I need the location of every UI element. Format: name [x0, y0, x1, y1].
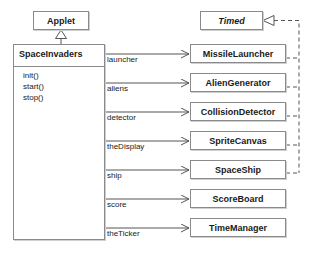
- class-name-aliengenerator: AlienGenerator: [191, 78, 285, 88]
- class-box-collisiondetector[interactable]: CollisionDetector: [190, 102, 286, 121]
- role-label-detector: detector: [107, 113, 136, 122]
- operations-compartment: init() start() stop(): [23, 70, 44, 103]
- class-box-spritecanvas[interactable]: SpriteCanvas: [190, 131, 286, 150]
- class-box-timemanager[interactable]: TimeManager: [190, 218, 286, 237]
- role-label-score: score: [107, 200, 127, 209]
- class-box-missilelauncher[interactable]: MissileLauncher: [190, 44, 286, 63]
- class-name-spritecanvas: SpriteCanvas: [191, 136, 285, 146]
- class-box-aliengenerator[interactable]: AlienGenerator: [190, 73, 286, 92]
- role-label-aliens: aliens: [107, 84, 128, 93]
- class-name-collisiondetector: CollisionDetector: [191, 107, 285, 117]
- class-name-spaceinvaders: SpaceInvaders: [19, 49, 83, 59]
- class-box-applet[interactable]: Applet: [33, 11, 89, 30]
- class-name-spaceship: SpaceShip: [191, 165, 285, 175]
- role-label-thedisplay: theDisplay: [107, 142, 144, 151]
- class-name-applet: Applet: [34, 16, 88, 26]
- class-box-spaceship[interactable]: SpaceShip: [190, 160, 286, 179]
- class-name-missilelauncher: MissileLauncher: [191, 49, 285, 59]
- operation-item: start(): [23, 81, 44, 92]
- interface-box-timed[interactable]: Timed: [200, 11, 263, 30]
- operation-item: init(): [23, 70, 44, 81]
- uml-class-diagram: Applet Timed SpaceInvaders init() start(…: [0, 0, 314, 257]
- generalization-applet: [56, 30, 67, 44]
- class-name-scoreboard: ScoreBoard: [191, 194, 285, 204]
- role-label-ship: ship: [107, 171, 122, 180]
- interface-name-timed: Timed: [201, 16, 262, 26]
- class-compartment-divider: [14, 66, 104, 67]
- class-name-timemanager: TimeManager: [191, 223, 285, 233]
- role-label-launcher: launcher: [107, 55, 138, 64]
- class-box-scoreboard[interactable]: ScoreBoard: [190, 189, 286, 208]
- operation-item: stop(): [23, 92, 44, 103]
- role-label-theticker: theTicker: [107, 229, 140, 238]
- class-box-spaceinvaders[interactable]: SpaceInvaders init() start() stop(): [13, 44, 105, 240]
